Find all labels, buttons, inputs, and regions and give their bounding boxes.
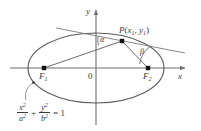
equation-fraction-y: y2 b2: [39, 102, 50, 123]
x-axis-label: x: [178, 72, 182, 81]
focus1-marker: [42, 66, 46, 70]
focus1-label: F1: [39, 72, 48, 82]
point-p-marker: [120, 39, 124, 43]
equation-den-b: b2: [39, 112, 50, 123]
origin-label: 0: [88, 72, 93, 81]
focus2-label: F2: [143, 72, 152, 82]
ellipse-figure: y x 0 F1 F2 P(x1, y1) α β x2 a2 + y2 b2 …: [0, 0, 201, 131]
angle-alpha-label: α: [100, 36, 104, 44]
angle-beta-label: β: [140, 48, 144, 56]
equation-num-y: y2: [39, 102, 50, 112]
ellipse-equation: x2 a2 + y2 b2 = 1: [16, 102, 65, 123]
equation-fraction-x: x2 a2: [17, 102, 28, 123]
point-p-paren-close: ): [146, 25, 149, 35]
equation-num-x-exp: 2: [23, 102, 26, 108]
equation-num-y-exp: 2: [45, 102, 48, 108]
equation-den-a: a2: [17, 112, 28, 123]
focus2-subscript: 2: [149, 76, 152, 82]
equation-equals-one: = 1: [53, 108, 65, 118]
equation-leader-line: [25, 83, 33, 100]
equation-leader-dot: [32, 81, 35, 84]
focal-radius-f1-p: [44, 41, 122, 68]
equation-plus: +: [31, 108, 36, 118]
equation-den-b-exp: 2: [45, 113, 48, 119]
focus1-subscript: 1: [45, 76, 48, 82]
angle-arc-alpha: [98, 37, 99, 46]
focus2-marker: [146, 66, 150, 70]
y-axis-label: y: [86, 7, 90, 16]
x-axis: [10, 66, 185, 70]
equation-den-a-exp: 2: [23, 113, 26, 119]
equation-num-x: x2: [17, 102, 28, 112]
point-p-label: P(x1, y1): [119, 26, 149, 36]
